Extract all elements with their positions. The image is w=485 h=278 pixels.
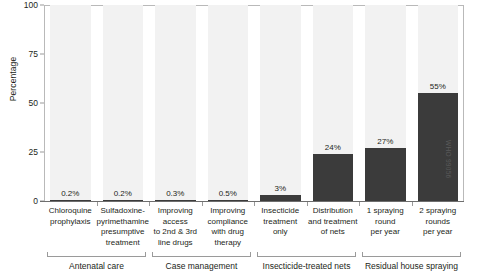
bar-column: 0.5% xyxy=(202,5,255,201)
category-label-line: Insecticide xyxy=(254,206,307,217)
group-label: Residual house spraying xyxy=(362,261,461,271)
bar-column: 3% xyxy=(254,5,307,201)
y-tick-label-75: 75 xyxy=(12,49,38,59)
plot-area: 0.2%0.2%0.3%0.5%3%24%27%55% xyxy=(44,5,464,201)
category-label-line: and treatment xyxy=(307,217,360,228)
category-label-line: therapy xyxy=(202,238,255,249)
category-label: Chloroquineprophylaxis xyxy=(44,206,97,227)
bar-chart: Percentage 0255075100 0.2%0.2%0.3%0.5%3%… xyxy=(0,0,485,278)
column-background-band xyxy=(260,5,301,201)
y-tick-label-0: 0 xyxy=(12,196,38,206)
y-tick-label-100: 100 xyxy=(12,0,38,10)
y-axis-tick-labels: 0255075100 xyxy=(12,0,38,278)
category-label-line: pyrimethamine xyxy=(97,217,150,228)
column-background-band xyxy=(155,5,196,201)
category-label-line: rounds xyxy=(412,217,465,228)
bar-column: 0.3% xyxy=(149,5,202,201)
category-label: 2 sprayingroundsper year xyxy=(412,206,465,238)
bar-column: 0.2% xyxy=(44,5,97,201)
category-label-line: 2 spraying xyxy=(412,206,465,217)
category-label-line: Chloroquine xyxy=(44,206,97,217)
category-label-line: presumptive xyxy=(97,227,150,238)
category-label: Improvingcompliancewith drugtherapy xyxy=(202,206,255,248)
category-label-line: Sulfadoxine- xyxy=(97,206,150,217)
category-label-line: treatment xyxy=(97,238,150,249)
category-label: Insecticidetreatmentonly xyxy=(254,206,307,238)
bar-column: 24% xyxy=(307,5,360,201)
category-label-line: per year xyxy=(359,227,412,238)
category-label-line: access xyxy=(149,217,202,228)
category-label-line: with drug xyxy=(202,227,255,238)
x-axis-baseline xyxy=(40,201,464,202)
category-label: Distributionand treatmentof nets xyxy=(307,206,360,238)
column-background-band xyxy=(208,5,249,201)
x-axis-category-labels: ChloroquineprophylaxisSulfadoxine-pyrime… xyxy=(44,206,464,250)
bar-value-label: 0.5% xyxy=(202,189,255,198)
category-label: Improvingaccessto 2nd & 3rdline drugs xyxy=(149,206,202,248)
category-label-line: compliance xyxy=(202,217,255,228)
category-label: Sulfadoxine-pyrimethaminepresumptivetrea… xyxy=(97,206,150,248)
category-label-line: 1 spraying xyxy=(359,206,412,217)
group-bracket xyxy=(257,252,356,257)
bar-value-label: 0.2% xyxy=(44,189,97,198)
bar-value-label: 0.2% xyxy=(97,189,150,198)
column-background-band xyxy=(103,5,144,201)
group-bracket xyxy=(152,252,251,257)
bar-value-label: 55% xyxy=(412,82,465,91)
group-label: Case management xyxy=(152,261,251,271)
category-label-line: of nets xyxy=(307,227,360,238)
bar xyxy=(313,154,354,201)
category-label-line: per year xyxy=(412,227,465,238)
category-label-line: round xyxy=(359,217,412,228)
category-label-line: Improving xyxy=(149,206,202,217)
category-label-line: to 2nd & 3rd xyxy=(149,227,202,238)
category-group-brackets: Antenatal careCase managementInsecticide… xyxy=(44,252,464,278)
y-tick-label-25: 25 xyxy=(12,147,38,157)
bar-value-label: 24% xyxy=(307,143,360,152)
group-label: Antenatal care xyxy=(47,261,146,271)
category-label: 1 sprayingroundper year xyxy=(359,206,412,238)
category-label-line: line drugs xyxy=(149,238,202,249)
bar-value-label: 27% xyxy=(359,137,412,146)
bar-value-label: 0.3% xyxy=(149,189,202,198)
category-label-line: only xyxy=(254,227,307,238)
y-tick-label-50: 50 xyxy=(12,98,38,108)
category-label-line: treatment xyxy=(254,217,307,228)
bar-column: 27% xyxy=(359,5,412,201)
bar-column: 55% xyxy=(412,5,465,201)
group-bracket xyxy=(47,252,146,257)
source-credit: WHO 99056 xyxy=(445,140,452,200)
bar-value-label: 3% xyxy=(254,184,307,193)
bar-column: 0.2% xyxy=(97,5,150,201)
bar xyxy=(365,148,406,201)
category-label-line: prophylaxis xyxy=(44,217,97,228)
group-label: Insecticide-treated nets xyxy=(257,261,356,271)
group-bracket xyxy=(362,252,461,257)
category-label-line: Improving xyxy=(202,206,255,217)
category-label-line: Distribution xyxy=(307,206,360,217)
column-background-band xyxy=(50,5,91,201)
